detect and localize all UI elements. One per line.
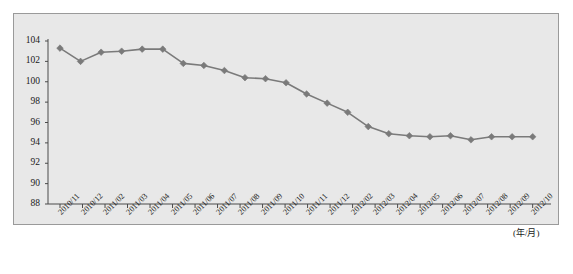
y-axis-tick-label: 102 bbox=[14, 56, 40, 66]
y-axis-tick-label: 98 bbox=[14, 97, 40, 107]
chart-figure: 889092949698100102104 2010/112010/122011… bbox=[0, 0, 573, 274]
y-axis-tick-label: 100 bbox=[14, 77, 40, 87]
y-axis-tick-label: 92 bbox=[14, 158, 40, 168]
y-axis-tick-label: 90 bbox=[14, 179, 40, 189]
x-axis-unit-label: (年/月) bbox=[513, 226, 540, 239]
y-axis-tick-label: 88 bbox=[14, 199, 40, 209]
y-axis-tick-label: 94 bbox=[14, 138, 40, 148]
y-axis-tick-label: 104 bbox=[14, 36, 40, 46]
y-axis-tick-label: 96 bbox=[14, 118, 40, 128]
